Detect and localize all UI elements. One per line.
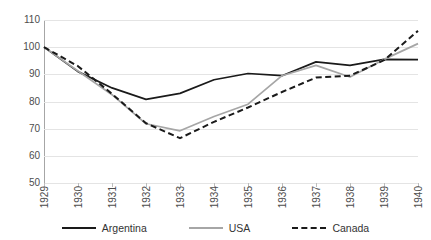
legend-item-argentina[interactable]: Argentina [62, 222, 147, 234]
legend-swatch-argentina [62, 227, 96, 229]
y-axis-label-100: 100 [4, 41, 40, 52]
legend-label-usa: USA [229, 222, 251, 234]
y-axis-label-90: 90 [4, 68, 40, 79]
x-axis-label-1929: 1929 [39, 186, 50, 208]
chart-legend: ArgentinaUSACanada [0, 219, 431, 237]
x-axis-label-1935: 1935 [243, 186, 254, 208]
legend-label-canada: Canada [332, 222, 369, 234]
y-axis-label-80: 80 [4, 96, 40, 107]
legend-item-usa[interactable]: USA [189, 222, 251, 234]
legend-item-canada[interactable]: Canada [292, 222, 369, 234]
plot-area [44, 20, 418, 183]
series-lines [44, 20, 418, 183]
y-axis-labels: 5060708090100110 [0, 20, 40, 184]
legend-label-argentina: Argentina [102, 222, 147, 234]
y-axis-label-60: 60 [4, 150, 40, 161]
x-axis-label-1934: 1934 [209, 186, 220, 208]
series-line-canada [44, 31, 418, 138]
x-axis-label-1939: 1939 [379, 186, 390, 208]
y-axis-label-50: 50 [4, 177, 40, 188]
gridline-50 [44, 183, 418, 184]
y-axis-label-70: 70 [4, 123, 40, 134]
x-axis-label-1930: 1930 [73, 186, 84, 208]
series-line-argentina [44, 47, 418, 99]
legend-swatch-usa [189, 227, 223, 229]
x-axis-label-1932: 1932 [141, 186, 152, 208]
clipped-title-strip [0, 0, 431, 7]
x-axis-label-1931: 1931 [107, 186, 118, 208]
legend-swatch-canada [292, 227, 326, 229]
y-axis-label-110: 110 [4, 14, 40, 25]
x-axis-label-1940: 1940 [413, 186, 424, 208]
x-axis-label-1937: 1937 [311, 186, 322, 208]
x-axis-label-1933: 1933 [175, 186, 186, 208]
x-axis-label-1936: 1936 [277, 186, 288, 208]
line-chart: 5060708090100110 19291930193119321933193… [0, 0, 431, 240]
x-axis-label-1938: 1938 [345, 186, 356, 208]
series-line-usa [44, 44, 418, 131]
